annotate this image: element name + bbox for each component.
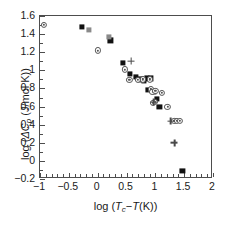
data-point-plus — [150, 99, 157, 106]
x-tick-label: −0.5 — [57, 181, 78, 192]
data-point-dotted-circle — [152, 88, 158, 94]
x-tick-major — [213, 173, 214, 178]
y-tick-label: 0.2 — [20, 137, 35, 148]
y-tick-label: 0.6 — [20, 100, 35, 111]
plot-data-area — [40, 16, 211, 177]
y-tick-label: 1.2 — [20, 46, 35, 57]
data-point-plus — [171, 139, 178, 146]
data-point-gray-square — [86, 27, 91, 32]
data-point-filled-square — [180, 168, 185, 173]
data-point-dotted-circle — [176, 118, 182, 124]
chart-figure: log (ΔCp (J/mol K)) log (Tc−T(K)) −0.200… — [0, 0, 228, 228]
data-point-dotted-circle — [95, 47, 101, 53]
x-tick-label: −1 — [33, 181, 45, 192]
data-point-dotted-circle — [164, 103, 170, 109]
data-point-gray-square — [107, 34, 112, 39]
data-point-dotted-circle — [41, 22, 47, 28]
data-point-dotted-circle — [159, 90, 165, 96]
x-tick-label: 2 — [209, 181, 215, 192]
y-axis-title: log (ΔCp (J/mol K)) — [19, 34, 33, 194]
x-tick-label: 1.5 — [176, 181, 191, 192]
y-tick-label: 1.4 — [20, 28, 35, 39]
plot-frame — [39, 15, 212, 178]
y-tick-label: 0 — [29, 155, 35, 166]
y-tick-label: 1 — [29, 64, 35, 75]
x-tick-label: 1 — [151, 181, 157, 192]
y-tick-label: 1.6 — [20, 10, 35, 21]
y-tick-label: −0.2 — [14, 173, 35, 184]
data-point-filled-square — [127, 71, 132, 76]
x-axis-title: log (Tc−T(K)) — [39, 200, 212, 214]
x-tick-label: 0.5 — [118, 181, 133, 192]
data-point-plus — [128, 58, 135, 65]
data-point-plus — [167, 118, 174, 125]
y-tick-label: 0.8 — [20, 82, 35, 93]
data-point-filled-square — [120, 60, 125, 65]
data-point-dotted-circle — [126, 77, 132, 83]
x-tick-label: 0 — [94, 181, 100, 192]
y-tick-label: 0.4 — [20, 118, 35, 129]
data-point-dotted-circle — [146, 76, 152, 82]
data-point-filled-square — [157, 104, 162, 109]
data-point-filled-square — [80, 24, 85, 29]
